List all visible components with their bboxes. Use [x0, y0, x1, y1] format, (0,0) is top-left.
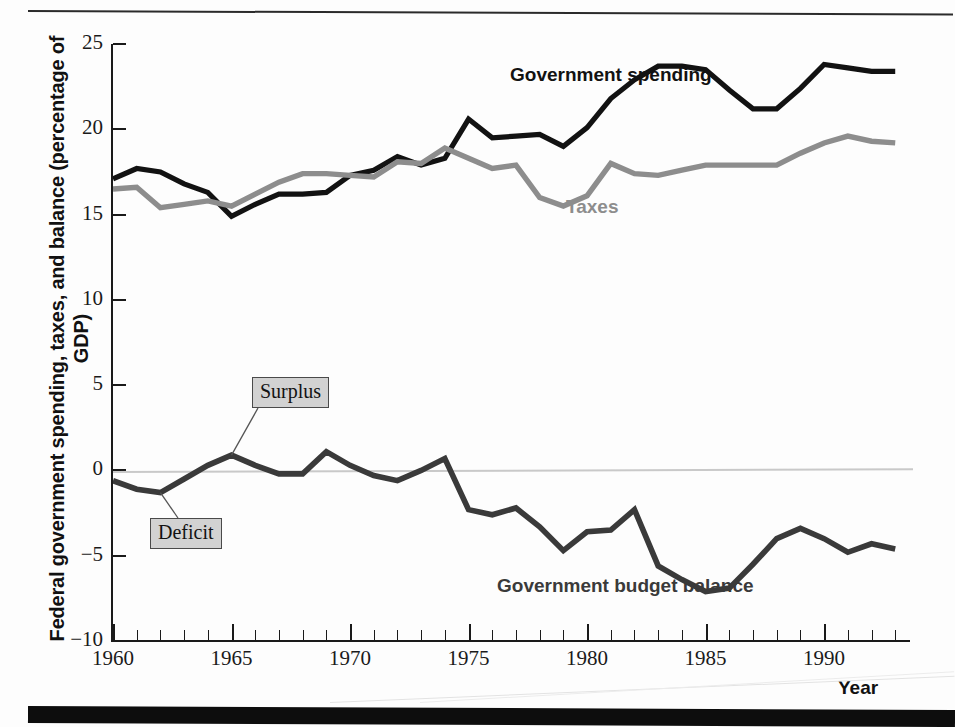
callout-leader-lines	[0, 0, 955, 727]
leader-line-surplus	[232, 408, 258, 455]
callout-deficit: Deficit	[150, 518, 222, 549]
leader-line-deficit	[160, 493, 178, 518]
figure-panel: Federal government spending, taxes, and …	[0, 0, 955, 727]
callout-surplus: Surplus	[252, 377, 329, 408]
